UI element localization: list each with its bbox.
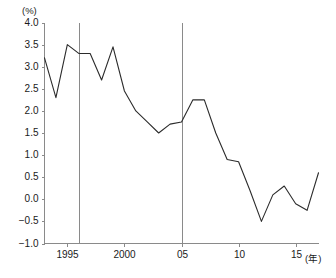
y-tick-label: 2.5 [25, 83, 39, 94]
chart-container: 4.03.53.02.52.01.51.00.50.0−0.5−1.0 1995… [0, 0, 336, 278]
x-axis-unit-label: (年) [305, 253, 321, 264]
y-tick-label: 2.0 [25, 105, 39, 116]
data-series-line [45, 45, 319, 222]
reference-lines-group [80, 23, 183, 244]
y-tick-label: 3.5 [25, 39, 39, 50]
line-chart: 4.03.53.02.52.01.51.00.50.0−0.5−1.0 1995… [0, 0, 336, 278]
y-tick-label: 1.5 [25, 127, 39, 138]
y-axis-unit-label: (%) [22, 5, 37, 16]
x-axis-tick-labels: 19952000051015 [56, 244, 302, 260]
x-tick-label: 05 [177, 249, 189, 260]
axes-group [45, 23, 319, 244]
y-axis-tick-labels: 4.03.53.02.52.01.51.00.50.0−0.5−1.0 [19, 17, 45, 249]
x-tick-label: 10 [234, 249, 246, 260]
y-tick-label: −1.0 [19, 238, 39, 249]
y-tick-label: 4.0 [25, 17, 39, 28]
x-tick-label: 2000 [113, 249, 136, 260]
x-tick-label: 15 [291, 249, 303, 260]
x-tick-label: 1995 [56, 249, 79, 260]
y-tick-label: 0.0 [25, 193, 39, 204]
y-tick-label: −0.5 [19, 215, 39, 226]
y-tick-label: 0.5 [25, 171, 39, 182]
y-tick-label: 1.0 [25, 149, 39, 160]
y-tick-label: 3.0 [25, 61, 39, 72]
